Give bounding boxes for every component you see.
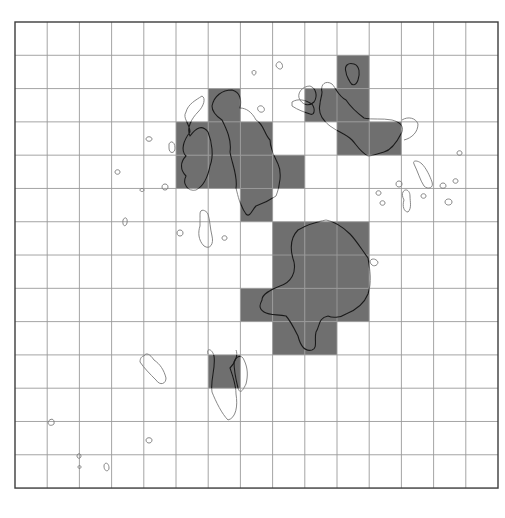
map-canvas <box>0 0 505 518</box>
central-south-east-islet-outline <box>370 259 378 266</box>
shaded-cell-r3-c5 <box>176 122 208 155</box>
east-islet-8-outline <box>445 199 452 205</box>
west-elongated-islet-outline <box>199 210 213 247</box>
west-islet-1-outline <box>146 137 152 142</box>
north-islet-d-outline <box>258 106 265 112</box>
shaded-cell-r4-c6 <box>208 155 240 188</box>
shaded-cell-r2-c10 <box>337 89 369 122</box>
shaded-cell-r8-c7 <box>240 288 272 321</box>
east-islet-3-outline <box>453 179 458 184</box>
south-islet-5-outline <box>146 438 152 443</box>
shaded-cell-r3-c10 <box>337 122 369 155</box>
west-islet-5-outline <box>162 184 168 190</box>
north-islet-c-outline <box>252 71 256 76</box>
west-islet-8-outline <box>222 236 227 241</box>
east-islet-7-outline <box>421 194 426 199</box>
shaded-cell-r9-c8 <box>273 322 305 355</box>
east-islet-1-outline <box>457 151 462 156</box>
shaded-cell-r6-c9 <box>305 222 337 255</box>
east-islet-5-outline <box>376 191 381 196</box>
west-islet-7-outline <box>177 230 183 236</box>
shaded-cell-r2-c9 <box>305 89 337 122</box>
west-islet-3-outline <box>115 170 120 175</box>
south-islet-4-outline <box>104 463 109 471</box>
west-islet-2-outline <box>169 142 175 153</box>
east-tall-islet-outline <box>402 190 410 212</box>
south-islet-1-outline <box>48 419 54 425</box>
east-islet-2-outline <box>440 183 446 188</box>
shaded-cell-r8-c9 <box>305 288 337 321</box>
north-islet-b-outline <box>276 62 283 69</box>
east-elongated-islet-outline <box>414 161 433 188</box>
east-islet-6-outline <box>380 201 385 206</box>
shaded-cell-r2-c6 <box>208 89 240 122</box>
shaded-cell-r3-c6 <box>208 122 240 155</box>
shaded-cell-r5-c7 <box>240 188 272 221</box>
grid-lines-layer <box>15 22 498 488</box>
east-coast-bulge-outline <box>402 118 418 140</box>
shaded-cell-r1-c10 <box>337 55 369 88</box>
shaded-cell-r7-c10 <box>337 255 369 288</box>
shaded-cell-r8-c8 <box>273 288 305 321</box>
shaded-cell-r3-c11 <box>369 122 401 155</box>
shaded-cell-r3-c7 <box>240 122 272 155</box>
shaded-cell-r4-c8 <box>273 155 305 188</box>
shaded-cell-r6-c8 <box>273 222 305 255</box>
shaded-cell-r7-c9 <box>305 255 337 288</box>
shaded-cell-r7-c8 <box>273 255 305 288</box>
shaded-cell-r4-c7 <box>240 155 272 188</box>
east-coast-bulge-outline-in-shaded <box>402 118 418 140</box>
